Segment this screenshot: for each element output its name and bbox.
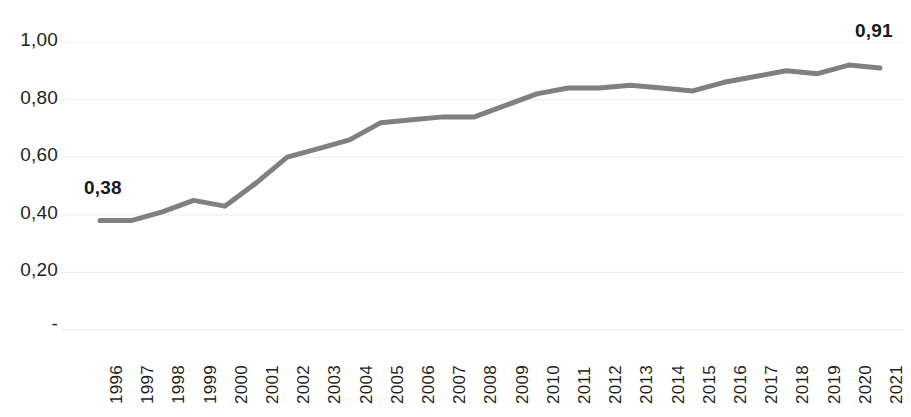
x-axis-tick-label: 2012	[606, 365, 626, 404]
x-axis-tick-label: 2017	[762, 365, 782, 404]
x-axis-tick-label: 2009	[513, 365, 533, 404]
y-axis-tick-label: 1,00	[20, 29, 58, 51]
y-axis-tick-label: -	[51, 313, 58, 335]
y-axis-tick-label: 0,20	[20, 259, 58, 281]
chart-plot-area	[0, 0, 911, 417]
x-axis-tick-label: 2001	[263, 365, 283, 404]
x-axis-tick-label: 2010	[544, 365, 564, 404]
x-axis-tick-label: 2007	[450, 365, 470, 404]
x-axis-tick-label: 2021	[887, 365, 907, 404]
x-axis-tick-label: 2006	[419, 365, 439, 404]
x-axis-tick-label: 2015	[700, 365, 720, 404]
x-axis-tick-label: 2000	[232, 365, 252, 404]
x-axis-tick-label: 2003	[325, 365, 345, 404]
x-axis-tick-label: 2016	[731, 365, 751, 404]
gridlines	[62, 42, 905, 330]
x-axis-tick-label: 2005	[388, 365, 408, 404]
x-axis-tick-label: 2008	[481, 365, 501, 404]
x-axis-tick-label: 2004	[357, 365, 377, 404]
last-value-label: 0,91	[855, 20, 893, 42]
first-value-label: 0,38	[84, 177, 122, 199]
series-line	[100, 65, 880, 221]
x-axis-tick-label: 1998	[169, 365, 189, 404]
x-axis-tick-label: 2011	[575, 366, 595, 404]
x-axis-tick-label: 2020	[856, 365, 876, 404]
y-axis-tick-label: 0,60	[20, 144, 58, 166]
x-axis-tick-label: 2019	[825, 365, 845, 404]
x-axis-tick-label: 2014	[669, 365, 689, 404]
y-axis-tick-label: 0,40	[20, 202, 58, 224]
x-axis-tick-label: 2018	[793, 365, 813, 404]
y-axis-tick-label: 0,80	[20, 87, 58, 109]
x-axis-tick-label: 2002	[294, 365, 314, 404]
x-axis-tick-label: 1997	[138, 365, 158, 404]
x-axis-tick-label: 1999	[201, 365, 221, 404]
x-axis-tick-label: 1996	[107, 365, 127, 404]
x-axis-tick-label: 2013	[637, 365, 657, 404]
line-chart: -0,200,400,600,801,00 199619971998199920…	[0, 0, 911, 417]
